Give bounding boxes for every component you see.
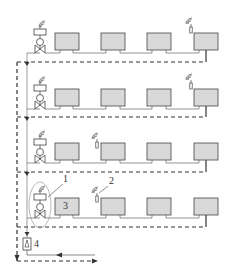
callout-3-label: 3 <box>63 201 68 211</box>
radiator <box>101 89 125 106</box>
radiator <box>101 33 125 50</box>
callout-1-label: 1 <box>63 174 68 184</box>
floor-3 <box>17 131 218 176</box>
radiator <box>194 33 218 50</box>
heating-schematic <box>0 0 233 275</box>
radiator <box>55 89 79 106</box>
floor-2 <box>17 74 218 121</box>
radiator <box>55 143 79 160</box>
floor-1 <box>17 18 218 66</box>
radiator <box>194 89 218 106</box>
radiator <box>147 89 171 106</box>
callout-4-label: 4 <box>34 239 39 249</box>
radiator <box>147 143 171 160</box>
radiator <box>147 198 171 215</box>
callout-2-label: 2 <box>109 176 114 186</box>
floor-4 <box>17 182 218 228</box>
radiator <box>147 33 171 50</box>
radiator <box>194 143 218 160</box>
pump <box>23 232 31 250</box>
radiator <box>101 198 125 215</box>
radiator <box>55 33 79 50</box>
radiator <box>101 143 125 160</box>
radiator <box>194 198 218 215</box>
